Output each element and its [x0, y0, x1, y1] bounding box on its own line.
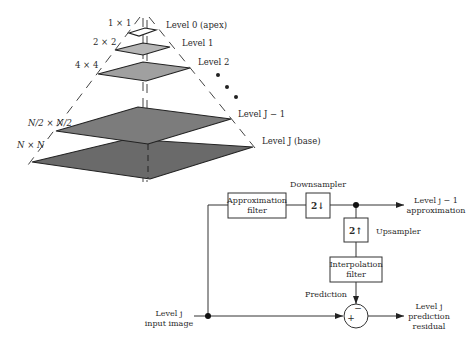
pyramid-level-1 — [115, 43, 170, 55]
output-residual-label-2: prediction — [408, 312, 450, 321]
diagram-canvas: 1 × 1 2 × 2 4 × 4 N/2 × N/2 N × N Level … — [0, 0, 475, 344]
output-residual-label-3: residual — [413, 322, 446, 331]
output-approx-label-2: approximation — [407, 206, 466, 215]
pyramid-level-J-minus-1 — [56, 107, 231, 144]
sum-plus-sign: + — [347, 313, 355, 323]
size-label-n2: N/2 × N/2 — [27, 118, 72, 128]
level-label-J-minus-1: Level J − 1 — [238, 109, 285, 119]
downsampler-symbol: 2↓ — [311, 201, 325, 211]
output-residual-label-1: Level j — [416, 302, 443, 311]
figure: 1 × 1 2 × 2 4 × 4 N/2 × N/2 N × N Level … — [0, 0, 475, 344]
downsampler-label: Downsampler — [290, 180, 346, 189]
approx-filter-label-1: Approximation — [226, 196, 287, 205]
approx-filter-label-2: filter — [247, 206, 267, 215]
level-label-J: Level J (base) — [262, 136, 321, 146]
input-junction — [205, 313, 211, 319]
size-label-nxn: N × N — [16, 140, 45, 150]
input-label-1: Level j — [156, 309, 183, 318]
ellipsis-dots — [216, 73, 238, 99]
input-label-2: input image — [145, 319, 194, 328]
pyramid-level-0 — [129, 28, 156, 36]
prediction-label: Prediction — [305, 290, 347, 299]
level-label-0: Level 0 (apex) — [166, 20, 227, 30]
size-label-4x4: 4 × 4 — [75, 60, 98, 70]
interp-filter-label-2: filter — [346, 270, 366, 279]
output-approx-label-1: Level j − 1 — [414, 196, 458, 205]
pyramid-level-2 — [98, 62, 190, 81]
upsampler-label: Upsampler — [376, 227, 421, 236]
size-label-1x1: 1 × 1 — [108, 18, 131, 28]
pyramid-level-J — [32, 139, 253, 179]
level-label-1: Level 1 — [182, 38, 213, 48]
level-label-2: Level 2 — [198, 57, 229, 67]
interp-filter-label-1: Interpolation — [329, 260, 382, 269]
sum-minus-sign: − — [354, 303, 362, 313]
approx-junction — [353, 202, 359, 208]
upsampler-symbol: 2↑ — [349, 226, 363, 236]
size-label-2x2: 2 × 2 — [93, 37, 116, 47]
